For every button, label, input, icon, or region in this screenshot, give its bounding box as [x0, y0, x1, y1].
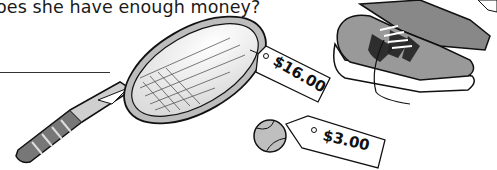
tennis-ball-icon [254, 120, 286, 152]
tennis-racket-icon [16, 0, 284, 162]
price-tag-ball: $3.00 [286, 116, 385, 168]
sneakers-icon [334, 0, 497, 104]
price-tag-racket: $16.00 [250, 46, 330, 102]
